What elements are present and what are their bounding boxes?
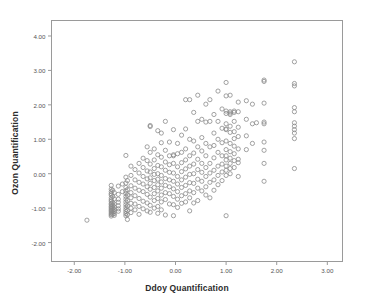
- y-tick-label: 4.00: [24, 32, 46, 39]
- x-tick-label: 3.00: [321, 267, 333, 274]
- y-axis-ticks: [48, 36, 52, 243]
- scatter-plot-figure: -2.00-1.000.001.002.003.00 -2.00-1.000.0…: [0, 0, 374, 306]
- x-axis-title: Ddoy Quantification: [0, 283, 374, 293]
- x-tick-label: 2.00: [271, 267, 283, 274]
- plot-frame: [52, 21, 343, 262]
- y-tick-label: 2.00: [24, 101, 46, 108]
- y-tick-label: 0.00: [24, 170, 46, 177]
- plot-canvas: [0, 0, 374, 306]
- plot-frame-rect: [52, 21, 343, 262]
- y-tick-label: -1.00: [24, 205, 46, 212]
- x-tick-label: -2.00: [67, 267, 81, 274]
- y-tick-label: 1.00: [24, 136, 46, 143]
- x-tick-label: 1.00: [220, 267, 232, 274]
- x-tick-label: -1.00: [118, 267, 132, 274]
- x-axis-ticks: [74, 262, 327, 266]
- y-tick-label: 3.00: [24, 67, 46, 74]
- y-axis-title: Ozon Quantification: [10, 0, 26, 306]
- y-tick-label: -2.00: [24, 239, 46, 246]
- x-tick-label: 0.00: [169, 267, 181, 274]
